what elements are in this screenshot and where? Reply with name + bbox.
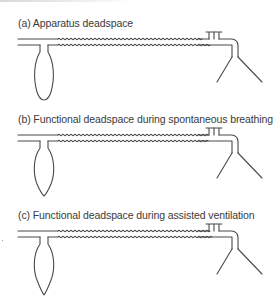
breathing-circuit-c: [0, 192, 278, 288]
elbow-outer: [219, 39, 238, 57]
panel-a: (a) Apparatus deadspace: [0, 0, 278, 96]
face-mask-left: [217, 57, 232, 82]
reservoir-bag: [34, 141, 53, 196]
reservoir-bag: [34, 237, 53, 295]
elbow-inner: [198, 45, 232, 57]
upper-tube-corrugated: [58, 134, 208, 135]
breathing-circuit-b: [0, 96, 278, 192]
face-mask-left: [217, 249, 232, 274]
lower-tube-corrugated: [58, 140, 208, 141]
breathing-circuit-a: [0, 0, 278, 96]
lower-tube-corrugated: [58, 236, 212, 237]
panel-c: (c) Functional deadspace during assisted…: [0, 192, 278, 288]
upper-tube-corrugated: [58, 38, 202, 39]
upper-tube-corrugated: [58, 230, 210, 231]
face-mask-left: [217, 153, 232, 178]
panel-b: (b) Functional deadspace during spontane…: [0, 96, 278, 192]
reservoir-bag: [35, 45, 54, 100]
face-mask-right: [238, 57, 262, 82]
face-mask-right: [238, 153, 262, 178]
lower-tube-corrugated: [58, 44, 210, 45]
face-mask-right: [238, 249, 262, 274]
scan-speck: [2, 240, 3, 241]
